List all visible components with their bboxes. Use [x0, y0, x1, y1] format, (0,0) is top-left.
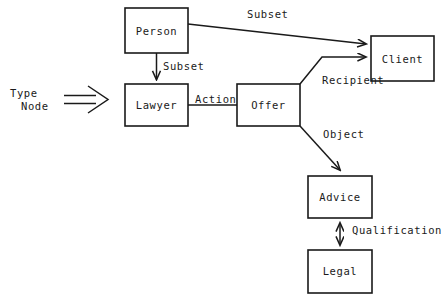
node-advice-label: Advice	[319, 191, 361, 203]
node-lawyer[interactable]: Lawyer	[125, 84, 188, 126]
node-legal[interactable]: Legal	[308, 250, 372, 293]
diagram-canvas: Person Client Lawyer Offer Advice Legal …	[0, 0, 441, 304]
edge-label-subset-client: Subset	[247, 8, 289, 20]
legend-label-line2: Node	[21, 100, 49, 112]
node-lawyer-label: Lawyer	[136, 99, 178, 111]
edge-label-recipient: Recipient	[322, 74, 384, 86]
node-person[interactable]: Person	[125, 8, 188, 53]
diagram-svg: Person Client Lawyer Offer Advice Legal …	[0, 0, 441, 304]
node-advice[interactable]: Advice	[308, 176, 372, 218]
legend-label-line1: Type	[10, 87, 38, 99]
node-legal-label: Legal	[323, 265, 358, 277]
double-line-arrow-right-icon	[64, 86, 108, 113]
node-person-label: Person	[136, 25, 178, 37]
legend-type-node: Type Node	[10, 87, 49, 112]
edge-label-qualification: Qualification	[352, 224, 441, 236]
edge-label-subset-lawyer: Subset	[163, 60, 205, 72]
edge-person-client	[188, 24, 366, 44]
node-client-label: Client	[382, 53, 424, 65]
edge-label-object: Object	[323, 128, 365, 140]
edge-person-client-line	[188, 24, 366, 44]
edge-label-action: Action	[195, 93, 237, 105]
node-offer-label: Offer	[251, 99, 286, 111]
node-offer[interactable]: Offer	[237, 84, 300, 126]
